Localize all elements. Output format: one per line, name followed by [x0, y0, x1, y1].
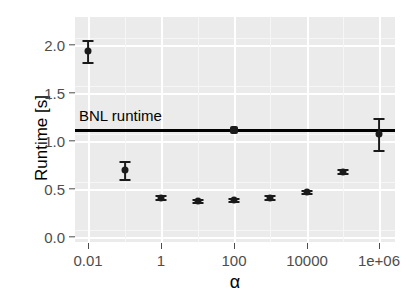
data-point [304, 189, 311, 196]
data-point [85, 48, 92, 55]
error-cap-low [83, 62, 94, 64]
x-tick-mark [307, 243, 308, 249]
data-point [267, 195, 274, 202]
data-point [231, 197, 238, 204]
y-tick-label: 0.0 [25, 229, 65, 246]
y-tick-label: 1.0 [25, 133, 65, 150]
x-tick-mark [379, 243, 380, 249]
error-cap-high [120, 161, 131, 163]
bnl-runtime-label: BNL runtime [79, 107, 162, 124]
x-tick-mark [161, 243, 162, 249]
error-cap-high [83, 40, 94, 42]
x-tick-mark [88, 243, 89, 249]
y-tick-label: 2.0 [25, 37, 65, 54]
x-tick-label: 10000 [267, 252, 347, 269]
x-tick-label: 100 [194, 252, 274, 269]
x-tick-mark [234, 243, 235, 249]
data-point [122, 167, 129, 174]
y-tick-label: 1.5 [25, 85, 65, 102]
error-cap-low [374, 150, 385, 152]
chart-root: Runtime [s] 0.0 0.5 1.0 1.5 2.0 [0, 0, 416, 304]
data-point [195, 198, 202, 205]
data-point [158, 195, 165, 202]
x-tick-label: 0.01 [48, 252, 128, 269]
data-point [230, 126, 238, 134]
y-tick-label: 0.5 [25, 181, 65, 198]
plot-panel: BNL runtime [75, 17, 395, 242]
error-cap-high [374, 118, 385, 120]
x-axis-title: α [75, 272, 395, 293]
error-cap-low [120, 179, 131, 181]
x-tick-label: 1 [121, 252, 201, 269]
data-point [340, 169, 347, 176]
x-tick-label: 1e+06 [339, 252, 416, 269]
data-point [376, 131, 383, 138]
